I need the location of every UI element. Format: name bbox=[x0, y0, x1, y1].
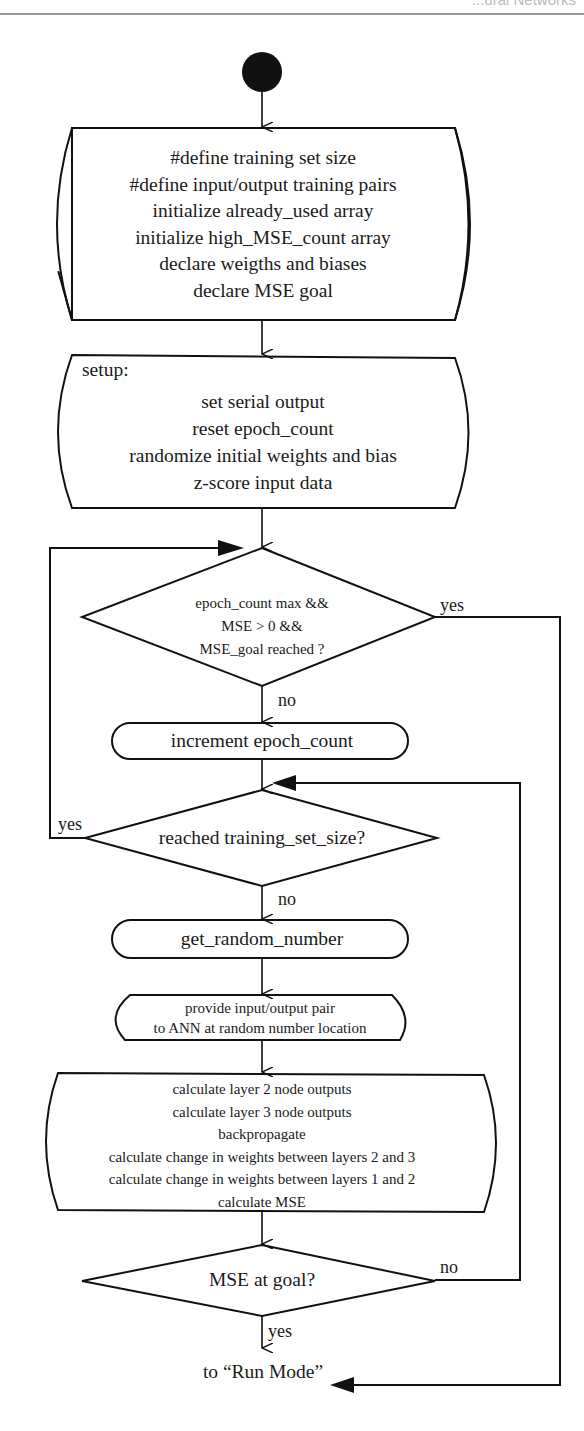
decision-epoch-yes-label: yes bbox=[440, 596, 464, 614]
calc-line: calculate change in weights between laye… bbox=[109, 1168, 416, 1191]
random-block-label: get_random_number bbox=[181, 929, 343, 949]
init-line: initialize high_MSE_count array bbox=[130, 225, 397, 252]
setup-block: set serial output reset epoch_count rand… bbox=[129, 388, 397, 496]
decision-mse-label: MSE at goal? bbox=[209, 1270, 315, 1290]
decision-training-set-no-label: no bbox=[278, 890, 296, 908]
calc-line: calculate layer 3 node outputs bbox=[109, 1101, 416, 1124]
init-line: declare weigths and biases bbox=[130, 251, 397, 278]
calc-line: calculate MSE bbox=[109, 1191, 416, 1214]
calc-block: calculate layer 2 node outputs calculate… bbox=[109, 1078, 416, 1213]
decision-epoch-line: MSE_goal reached ? bbox=[195, 638, 328, 661]
decision-mse-no-label: no bbox=[440, 1258, 458, 1276]
setup-line: randomize initial weights and bias bbox=[129, 442, 397, 469]
init-line: declare MSE goal bbox=[130, 278, 397, 305]
exit-arrowhead-icon bbox=[330, 1377, 354, 1393]
init-line: #define training set size bbox=[130, 145, 397, 172]
calc-line: calculate change in weights between laye… bbox=[109, 1146, 416, 1169]
provide-block: provide input/output pair to ANN at rand… bbox=[154, 998, 367, 1038]
loop-arrowhead-icon bbox=[218, 540, 244, 556]
calc-line: backpropagate bbox=[109, 1123, 416, 1146]
provide-line: provide input/output pair bbox=[154, 998, 367, 1018]
setup-line: reset epoch_count bbox=[129, 415, 397, 442]
setup-line: set serial output bbox=[129, 388, 397, 415]
return-arrowhead-icon bbox=[272, 775, 296, 791]
init-block: #define training set size #define input/… bbox=[130, 145, 397, 304]
calc-line: calculate layer 2 node outputs bbox=[109, 1078, 416, 1101]
decision-mse-yes-label: yes bbox=[268, 1322, 292, 1340]
exit-label: to “Run Mode” bbox=[203, 1362, 323, 1382]
decision-epoch-line: MSE > 0 && bbox=[195, 615, 328, 638]
init-line: #define input/output training pairs bbox=[130, 172, 397, 199]
decision-training-set-label: reached training_set_size? bbox=[159, 828, 365, 848]
setup-line: z-score input data bbox=[129, 469, 397, 496]
decision-epoch-line: epoch_count max && bbox=[195, 592, 328, 615]
decision-epoch-no-label: no bbox=[278, 691, 296, 709]
provide-line: to ANN at random number location bbox=[154, 1018, 367, 1038]
decision-training-set-yes-label: yes bbox=[58, 815, 82, 833]
decision-epoch: epoch_count max && MSE > 0 && MSE_goal r… bbox=[195, 592, 328, 661]
setup-title: setup: bbox=[82, 360, 129, 380]
start-node-icon bbox=[242, 52, 282, 92]
increment-block-label: increment epoch_count bbox=[171, 731, 353, 751]
init-line: initialize already_used array bbox=[130, 198, 397, 225]
